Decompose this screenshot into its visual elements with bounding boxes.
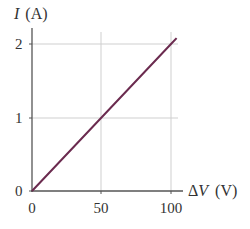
data-line: [32, 38, 177, 191]
x-axis-delta: Δ: [188, 182, 198, 199]
x-tick-label-0: 0: [28, 200, 36, 216]
y-axis-label: I (A): [13, 5, 48, 23]
y-axis-symbol: I: [13, 5, 20, 22]
y-tick-label-0: 0: [15, 183, 23, 199]
x-tick-label-50: 50: [94, 200, 109, 216]
x-axis-unit: (V): [215, 182, 237, 200]
y-axis-unit: (A): [25, 5, 47, 23]
y-tick-label-1: 1: [15, 110, 23, 126]
x-tick-label-100: 100: [160, 200, 183, 216]
x-axis-symbol: V: [198, 182, 210, 199]
iv-chart: 2 1 0 0 50 100 I (A) ΔV (V): [0, 0, 250, 229]
x-axis-label: ΔV (V): [188, 182, 237, 200]
y-tick-label-2: 2: [15, 36, 23, 52]
